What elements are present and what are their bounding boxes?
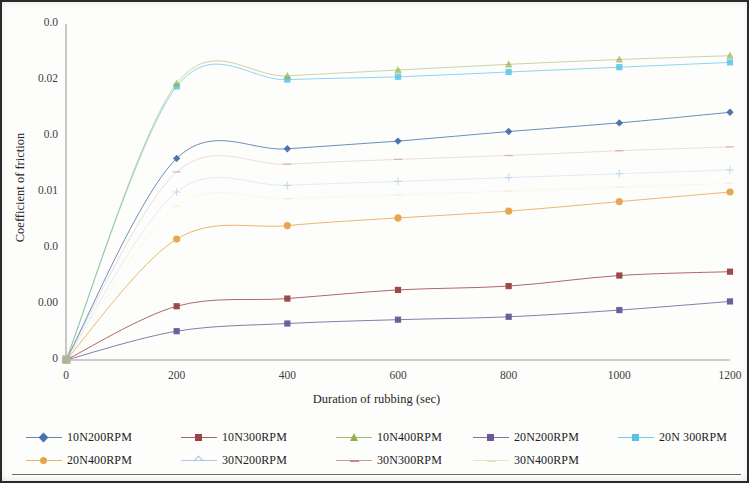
data-point-marker	[727, 59, 733, 65]
x-axis-tick-label: 1200	[700, 369, 749, 381]
legend-swatch-dash-icon	[336, 455, 372, 467]
data-point-marker	[395, 74, 401, 80]
legend-label: 30N200RPM	[222, 453, 287, 468]
legend-swatch-dash-icon	[473, 455, 509, 467]
data-point-marker	[506, 69, 512, 75]
x-axis-tick-label: 600	[368, 369, 428, 381]
legend-label: 20N400RPM	[67, 453, 132, 468]
y-axis-tick-label: 0.0	[12, 240, 58, 252]
data-point-marker	[616, 272, 622, 278]
series-line	[66, 170, 730, 360]
series-line	[66, 62, 730, 360]
legend-row: 10N200RPM10N300RPM10N400RPM20N200RPM20N …	[26, 426, 736, 449]
data-point-marker	[394, 137, 401, 144]
legend-item-30n400rpm[interactable]: 30N400RPM	[473, 450, 579, 472]
x-axis-tick-label: 0	[36, 369, 96, 381]
data-point-marker	[726, 166, 734, 174]
data-point-marker	[174, 303, 180, 309]
data-point-marker	[506, 314, 512, 320]
x-axis-tick-label: 400	[257, 369, 317, 381]
legend-item-10n200rpm[interactable]: 10N200RPM	[26, 427, 132, 449]
series-20n200rpm	[63, 298, 733, 363]
series-10n200rpm	[62, 109, 733, 364]
y-axis-tick-label: 0.02	[12, 72, 58, 84]
data-point-marker	[284, 145, 291, 152]
legend-item-10n400rpm[interactable]: 10N400RPM	[336, 427, 442, 449]
data-point-marker	[174, 328, 180, 334]
legend-item-20n300rpm[interactable]: 20N 300RPM	[618, 427, 727, 449]
data-point-marker	[284, 320, 290, 326]
chart-legend: 10N200RPM10N300RPM10N400RPM20N200RPM20N …	[26, 426, 736, 472]
y-axis-tick-label: 0.0	[12, 16, 58, 28]
legend-label: 30N300RPM	[377, 453, 442, 468]
data-point-marker	[394, 178, 402, 186]
legend-swatch-circle-icon	[26, 455, 62, 467]
data-point-marker	[726, 109, 733, 116]
data-point-marker	[173, 235, 180, 242]
data-point-marker	[615, 170, 623, 178]
x-axis-tick-label: 800	[479, 369, 539, 381]
chart-svg	[2, 2, 749, 417]
data-point-marker	[727, 269, 733, 275]
data-point-marker	[727, 298, 733, 304]
legend-swatch-square-icon	[618, 432, 654, 444]
data-point-marker	[616, 198, 623, 205]
legend-label: 10N300RPM	[222, 430, 287, 445]
chart-plot-area: Coefficient of friction Duration of rubb…	[2, 2, 749, 417]
y-axis-tick-label: 0.00	[12, 296, 58, 308]
figure-frame: Coefficient of friction Duration of rubb…	[0, 0, 749, 483]
x-axis-tick-label: 1000	[589, 369, 649, 381]
data-point-marker	[284, 295, 290, 301]
legend-swatch-triangle-icon	[336, 432, 372, 444]
data-point-marker	[505, 208, 512, 215]
series-10n300rpm	[63, 269, 733, 364]
legend-swatch-square-icon	[473, 432, 509, 444]
data-point-marker	[726, 52, 734, 59]
legend-swatch-plus-icon	[181, 455, 217, 467]
legend-label: 20N 300RPM	[659, 430, 727, 445]
legend-item-30n300rpm[interactable]: 30N300RPM	[336, 450, 442, 472]
x-axis-title: Duration of rubbing (sec)	[2, 392, 749, 407]
legend-label: 30N400RPM	[514, 453, 579, 468]
data-point-marker	[395, 317, 401, 323]
y-axis-tick-label: 0	[12, 352, 58, 364]
y-axis-tick-label: 0.0	[12, 128, 58, 140]
data-point-marker	[506, 283, 512, 289]
data-point-marker	[726, 188, 733, 195]
series-line	[66, 272, 730, 360]
legend-label: 20N200RPM	[514, 430, 579, 445]
series-line	[66, 56, 730, 360]
data-point-marker	[395, 287, 401, 293]
data-point-marker	[284, 222, 291, 229]
x-axis-tick-label: 200	[147, 369, 207, 381]
data-point-marker	[283, 181, 291, 189]
data-point-marker	[616, 119, 623, 126]
data-point-marker	[505, 174, 513, 182]
data-point-marker	[616, 307, 622, 313]
legend-label: 10N200RPM	[67, 430, 132, 445]
legend-item-20n400rpm[interactable]: 20N400RPM	[26, 450, 132, 472]
series-20n400rpm	[62, 188, 733, 363]
series-line	[66, 112, 730, 360]
series-10n400rpm	[62, 52, 734, 364]
data-point-marker	[394, 214, 401, 221]
data-point-marker	[505, 128, 512, 135]
legend-swatch-diamond-icon	[26, 432, 62, 444]
y-axis-tick-label: 0.01	[12, 184, 58, 196]
origin-artifact	[62, 355, 71, 364]
legend-row: 20N400RPM30N200RPM30N300RPM30N400RPM	[26, 449, 736, 472]
legend-divider	[12, 474, 741, 475]
legend-item-30n200rpm[interactable]: 30N200RPM	[181, 450, 287, 472]
legend-swatch-square-icon	[181, 432, 217, 444]
legend-item-10n300rpm[interactable]: 10N300RPM	[181, 427, 287, 449]
legend-label: 10N400RPM	[377, 430, 442, 445]
legend-item-20n200rpm[interactable]: 20N200RPM	[473, 427, 579, 449]
data-point-marker	[616, 64, 622, 70]
